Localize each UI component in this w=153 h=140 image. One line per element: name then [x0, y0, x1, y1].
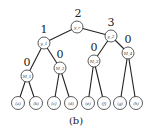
leaf-label: (f): [102, 101, 107, 106]
leaf-node: (d): [65, 97, 78, 110]
tree-node-y2: y_23: [105, 16, 117, 42]
tree-node-M4: M_40: [122, 33, 134, 59]
tree-node-root: y_r2: [71, 7, 83, 33]
node-weight: 0: [125, 33, 132, 46]
leaf-node: (g): [114, 97, 127, 110]
node-weight: 2: [75, 7, 82, 20]
tree-edges: [18, 27, 136, 103]
node-label: M_1: [22, 74, 32, 79]
leaf-node: (h): [130, 97, 143, 110]
node-label: M_2: [55, 66, 65, 71]
node-weight: 1: [41, 23, 48, 36]
tree-nodes: y_r2y_11y_23M_10M_20M_30M_40(a)(b)(c)(d)…: [12, 7, 143, 110]
tree-diagram: y_r2y_11y_23M_10M_20M_30M_40(a)(b)(c)(d)…: [0, 0, 153, 140]
figure-caption: (b): [69, 115, 83, 126]
leaf-node: (c): [48, 97, 61, 110]
leaf-node: (e): [82, 97, 95, 110]
tree-node-y1: y_11: [38, 23, 50, 49]
leaf-label: (b): [33, 101, 39, 106]
node-weight: 0: [57, 48, 64, 61]
leaf-edge: [128, 53, 136, 103]
leaf-node: (a): [12, 97, 25, 110]
leaf-label: (d): [68, 101, 74, 106]
leaf-node: (b): [30, 97, 43, 110]
leaf-label: (c): [51, 101, 57, 106]
node-weight: 0: [24, 56, 31, 69]
node-weight: 3: [108, 16, 115, 29]
leaf-label: (g): [117, 101, 123, 106]
leaf-edge: [120, 53, 128, 103]
leaf-label: (e): [85, 101, 91, 106]
node-label: y_2: [107, 34, 115, 39]
leaf-label: (a): [15, 101, 21, 106]
node-label: y_1: [40, 41, 48, 46]
node-weight: 0: [91, 41, 98, 54]
node-label: M_4: [123, 51, 133, 56]
node-label: y_r: [73, 25, 81, 30]
leaf-node: (f): [98, 97, 111, 110]
node-label: M_3: [89, 59, 99, 64]
tree-canvas: y_r2y_11y_23M_10M_20M_30M_40(a)(b)(c)(d)…: [0, 0, 153, 140]
leaf-label: (h): [133, 101, 139, 106]
